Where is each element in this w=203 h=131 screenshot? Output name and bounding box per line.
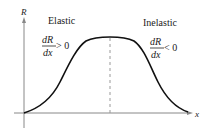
- elastic-label: Elastic: [48, 15, 76, 26]
- inelastic-label: Inelastic: [143, 17, 177, 28]
- inelastic-derivative-denominator: dx: [151, 49, 161, 60]
- y-axis-label: R: [20, 7, 27, 17]
- inelastic-derivative-numerator: dR: [150, 36, 161, 47]
- revenue-elasticity-diagram: R x Elastic dR dx > 0 Inelastic dR dx < …: [0, 0, 203, 131]
- y-axis-arrow-icon: [22, 17, 26, 23]
- inelastic-inequality: < 0: [164, 42, 177, 53]
- elastic-derivative-denominator: dx: [43, 47, 53, 58]
- elastic-inequality: > 0: [56, 40, 69, 51]
- elastic-derivative-numerator: dR: [42, 34, 53, 45]
- x-axis-label: x: [194, 109, 199, 119]
